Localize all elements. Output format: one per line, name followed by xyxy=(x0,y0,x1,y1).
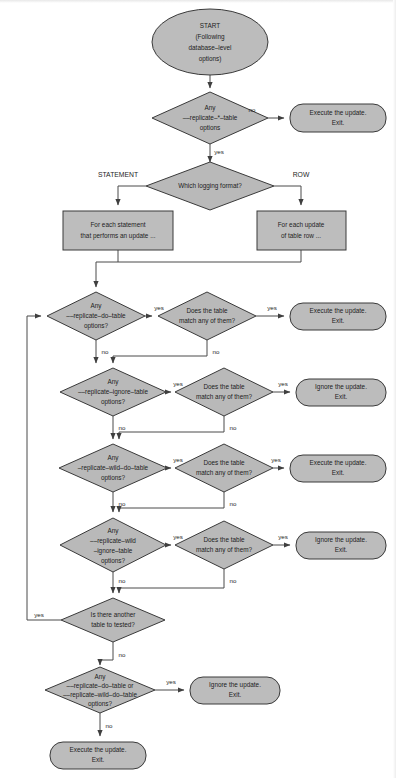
node-final-line2: ––replicate–do–table or xyxy=(67,682,135,690)
node-wild-ignore-line4: options? xyxy=(101,557,126,565)
node-match1-line1: Does the table xyxy=(186,307,228,314)
node-any-replicate-star-table: Any ––replicate–*–table options xyxy=(152,92,268,144)
edge-merge-boxes xyxy=(118,250,301,262)
node-wild-do-line2: –replicate–wild–do–table xyxy=(78,464,149,472)
edge-label-no-10: no xyxy=(106,722,113,729)
node-another-table: Is there another table to tested? xyxy=(61,598,165,642)
edge-label-yes-2: yes xyxy=(154,304,164,311)
node-ignore1-line1: Ignore the update. xyxy=(315,383,367,391)
edge-label-yes-9: yes xyxy=(278,533,288,540)
node-ignore-update-1: Ignore the update. Exit. xyxy=(296,379,386,406)
node-exec4-line1: Execute the update. xyxy=(70,746,127,754)
edge-label-no-3: no xyxy=(213,348,220,355)
edge-match1-no xyxy=(113,340,207,363)
edge-label-yes-10: yes xyxy=(166,678,176,685)
node-execute-update-4: Execute the update. Exit. xyxy=(50,742,146,769)
edge-row-branch xyxy=(274,186,301,205)
node-match4-line2: match any of them? xyxy=(196,546,253,554)
node-final-line3: ––replicate–wild–do–table xyxy=(63,691,137,699)
node-exec3-line2: Exit. xyxy=(332,469,345,476)
node-start-line2: (Following xyxy=(195,33,225,41)
edge-label-no-8: no xyxy=(119,577,126,584)
node-stmt-line1: For each statement xyxy=(90,221,145,228)
node-any-do-or-wild-do: Any ––replicate–do–table or ––replicate–… xyxy=(45,667,155,713)
node-replicate-wild-do-table: Any –replicate–wild–do–table options? xyxy=(59,444,167,492)
node-start: START (Following database–level options) xyxy=(152,9,268,75)
node-replicate-wild-ignore-table: Any ––replicate–wild –ignore–table optio… xyxy=(60,518,166,572)
node-for-each-statement: For each statement that performs an upda… xyxy=(63,211,173,250)
node-any-star-line1: Any xyxy=(204,104,216,112)
node-stmt-line2: that performs an update ... xyxy=(81,232,156,240)
node-logging-line1: Which logging format? xyxy=(178,182,242,190)
node-ignore2-line1: Ignore the update. xyxy=(315,536,367,544)
connectors xyxy=(27,75,301,736)
edge-label-statement: STATEMENT xyxy=(98,171,138,178)
node-match-2: Does the table match any of them? xyxy=(175,368,273,416)
node-final-line4: options? xyxy=(88,700,113,708)
flowchart-canvas: START (Following database–level options)… xyxy=(0,0,396,778)
node-wild-do-line1: Any xyxy=(107,454,119,462)
edge-match3-no xyxy=(119,492,224,512)
edge-label-yes-6: yes xyxy=(173,456,183,463)
node-match2-line1: Does the table xyxy=(203,383,245,390)
node-match4-line1: Does the table xyxy=(203,536,245,543)
node-match3-line1: Does the table xyxy=(203,459,245,466)
edge-label-no-7: no xyxy=(230,500,237,507)
node-match3-line2: match any of them? xyxy=(196,469,253,477)
edge-label-yes-3: yes xyxy=(267,304,277,311)
edge-label-row: ROW xyxy=(293,171,310,178)
node-exec1-line1: Execute the update. xyxy=(310,109,367,117)
edge-loop-back-yes xyxy=(27,316,61,620)
node-exec3-line1: Execute the update. xyxy=(310,459,367,467)
node-final-line1: Any xyxy=(94,673,106,681)
edge-label-yes-7: yes xyxy=(271,456,281,463)
node-replicate-ignore-table: Any ––replicate–ignore–table options? xyxy=(60,368,166,416)
node-wild-ignore-line2: ––replicate–wild xyxy=(90,537,136,545)
edge-label-no-6: no xyxy=(119,500,126,507)
edge-label-no-5: no xyxy=(230,424,237,431)
node-another-table-line1: Is there another xyxy=(91,611,137,618)
node-execute-update-2: Execute the update. Exit. xyxy=(290,303,386,330)
flowchart-svg: START (Following database–level options)… xyxy=(0,0,396,778)
edge-label-no-9b: no xyxy=(119,651,126,658)
node-for-each-update-row: For each update of table row ... xyxy=(257,211,346,250)
node-replicate-do-table: Any ––replicate–do–table options? xyxy=(47,292,145,340)
edge-label-no-1: no xyxy=(249,106,256,113)
edge-labels: no yes STATEMENT ROW yes yes no no yes y… xyxy=(34,106,310,729)
edge-label-no-9: no xyxy=(230,577,237,584)
edge-label-yes-loop: yes xyxy=(34,611,44,618)
node-start-line3: database–level xyxy=(189,44,232,51)
node-ignore2-line2: Exit. xyxy=(335,546,348,553)
node-ignore3-line1: Ignore the update. xyxy=(209,681,261,689)
node-ignore1-line2: Exit. xyxy=(335,393,348,400)
edge-label-no-2: no xyxy=(102,348,109,355)
node-execute-update-3: Execute the update. Exit. xyxy=(290,455,386,482)
edge-label-yes-4: yes xyxy=(173,380,183,387)
node-row-line1: For each update xyxy=(278,221,325,229)
node-row-line2: of table row ... xyxy=(281,232,321,239)
edge-another-table-no xyxy=(100,642,113,665)
edge-label-yes-1: yes xyxy=(214,148,224,155)
node-do-table-line3: options? xyxy=(84,322,109,330)
node-match2-line2: match any of them? xyxy=(196,393,253,401)
node-exec2-line1: Execute the update. xyxy=(310,307,367,315)
node-match-3: Does the table match any of them? xyxy=(175,444,273,492)
node-match-1: Does the table match any of them? xyxy=(158,292,256,340)
node-ignore-table-line1: Any xyxy=(107,378,119,386)
node-ignore-table-line3: options? xyxy=(101,398,126,406)
node-exec1-line2: Exit. xyxy=(332,119,345,126)
node-any-star-line3: options xyxy=(200,124,221,132)
node-wild-do-line3: options? xyxy=(101,474,126,482)
node-ignore-update-3: Ignore the update. Exit. xyxy=(190,677,280,704)
node-do-table-line2: ––replicate–do–table xyxy=(66,312,126,320)
edge-match4-no xyxy=(119,569,224,593)
node-match1-line2: match any of them? xyxy=(179,317,236,325)
node-which-logging-format: Which logging format? xyxy=(146,162,274,210)
node-do-table-line1: Any xyxy=(90,302,102,310)
node-ignore-update-2: Ignore the update. Exit. xyxy=(296,532,386,559)
edge-label-yes-8: yes xyxy=(173,533,183,540)
node-exec2-line2: Exit. xyxy=(332,317,345,324)
node-wild-ignore-line1: Any xyxy=(107,527,119,535)
node-match-4: Does the table match any of them? xyxy=(175,521,273,569)
node-exec4-line2: Exit. xyxy=(92,756,105,763)
